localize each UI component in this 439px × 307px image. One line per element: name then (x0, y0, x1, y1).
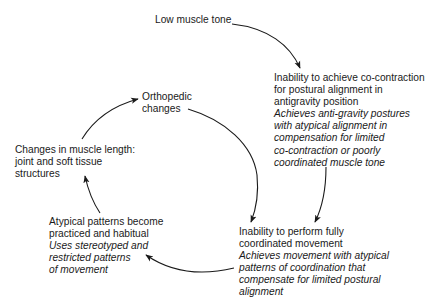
node-label: changes (142, 103, 192, 115)
node-low-muscle-tone: Low muscle tone (155, 14, 231, 26)
node-detail: alignment (239, 286, 389, 298)
node-label: Inability to achieve co-contraction (274, 72, 425, 84)
node-detail: Achieves movement with atypical (239, 250, 389, 262)
node-label: Changes in muscle length: (15, 144, 135, 156)
arrow-low-tone-to-cocontraction (232, 24, 300, 68)
node-label: for postural alignment in (274, 84, 425, 96)
node-detail: compensate for limited postural (239, 274, 389, 286)
node-detail: co-contraction or poorly (274, 145, 425, 157)
node-coordination: Inability to perform fully coordinated m… (239, 226, 389, 299)
node-label: Atypical patterns become (49, 216, 163, 228)
node-orthopedic: Orthopedic changes (142, 91, 192, 115)
arrow-muscle-length-to-orthopedic (82, 99, 138, 139)
node-label: Low muscle tone (155, 14, 231, 26)
arrow-cocontraction-to-coordination (315, 167, 326, 222)
node-detail: coordinated muscle tone (274, 157, 425, 169)
arrow-orthopedic-to-coordination (188, 109, 258, 222)
node-label: practiced and habitual (49, 228, 163, 240)
node-detail: of movement (49, 264, 163, 276)
node-label: Orthopedic (142, 91, 192, 103)
node-label: coordinated movement (239, 238, 389, 250)
node-label: structures (15, 168, 135, 180)
node-detail: compensation for limited (274, 132, 425, 144)
arrow-habitual-to-muscle-length (85, 176, 100, 213)
node-habitual: Atypical patterns become practiced and h… (49, 216, 163, 276)
node-label: Inability to perform fully (239, 226, 389, 238)
node-cocontraction: Inability to achieve co-contraction for … (274, 72, 425, 169)
node-detail: restricted patterns (49, 252, 163, 264)
node-label: joint and soft tissue (15, 156, 135, 168)
node-detail: Uses stereotyped and (49, 240, 163, 252)
node-detail: patterns of coordination that (239, 262, 389, 274)
node-detail: with atypical alignment in (274, 120, 425, 132)
node-muscle-length: Changes in muscle length: joint and soft… (15, 144, 135, 180)
node-detail: Achieves anti-gravity postures (274, 108, 425, 120)
node-label: antigravity position (274, 96, 425, 108)
